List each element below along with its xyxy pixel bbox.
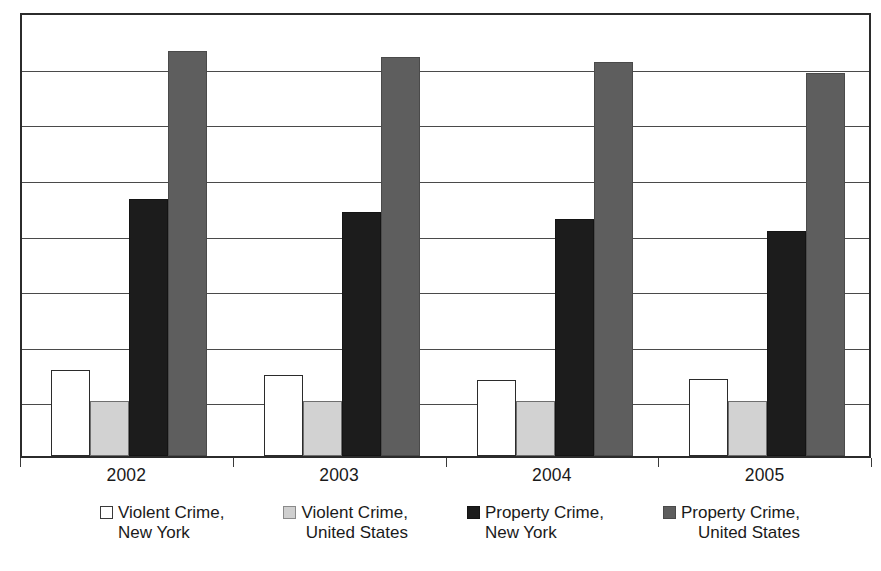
plot-area	[20, 13, 871, 458]
bars-layer	[22, 15, 869, 456]
bar-2005-series-0[interactable]	[689, 379, 728, 456]
legend-swatch-icon-mid-gray	[663, 506, 676, 519]
legend-label-0: Violent Crime, New York	[118, 503, 224, 543]
legend-item-2[interactable]: Property Crime, New York	[467, 503, 604, 543]
x-axis-label-2005: 2005	[658, 465, 871, 486]
legend-swatch-icon-light-gray	[283, 506, 296, 519]
legend-swatch-icon-black	[467, 506, 480, 519]
bar-group-2003	[235, 15, 448, 456]
bar-2005-series-1[interactable]	[728, 401, 767, 456]
bar-2003-series-2[interactable]	[342, 212, 381, 456]
bar-2005-series-2[interactable]	[767, 231, 806, 456]
legend-swatch-icon-white-outlined	[100, 506, 113, 519]
bar-2003-series-0[interactable]	[264, 375, 303, 456]
legend-label-1: Violent Crime, United States	[301, 503, 407, 543]
legend-item-0[interactable]: Violent Crime, New York	[100, 503, 224, 543]
bar-2003-series-1[interactable]	[303, 401, 342, 456]
legend-label-2: Property Crime, New York	[485, 503, 604, 543]
bar-2002-series-0[interactable]	[51, 370, 90, 456]
bar-2002-series-2[interactable]	[129, 199, 168, 456]
chart-legend: Violent Crime, New YorkViolent Crime, Un…	[100, 503, 800, 543]
x-axis-label-2002: 2002	[20, 465, 233, 486]
bar-2004-series-0[interactable]	[477, 380, 516, 456]
bar-group-2005	[660, 15, 873, 456]
bar-2004-series-2[interactable]	[555, 219, 594, 456]
x-axis-label-2004: 2004	[446, 465, 659, 486]
legend-label-3: Property Crime, United States	[681, 503, 800, 543]
x-tick-4	[871, 458, 872, 467]
bar-2004-series-1[interactable]	[516, 401, 555, 456]
grouped-bar-chart: 2002200320042005 Violent Crime, New York…	[0, 0, 881, 571]
bar-2004-series-3[interactable]	[594, 62, 633, 456]
x-axis-label-2003: 2003	[233, 465, 446, 486]
bar-2002-series-1[interactable]	[90, 401, 129, 456]
bar-group-2004	[448, 15, 661, 456]
bar-group-2002	[22, 15, 235, 456]
legend-item-3[interactable]: Property Crime, United States	[663, 503, 800, 543]
x-axis-labels: 2002200320042005	[20, 465, 871, 495]
bar-2002-series-3[interactable]	[168, 51, 207, 456]
bar-2003-series-3[interactable]	[381, 57, 420, 456]
legend-item-1[interactable]: Violent Crime, United States	[283, 503, 407, 543]
bar-2005-series-3[interactable]	[806, 73, 845, 456]
